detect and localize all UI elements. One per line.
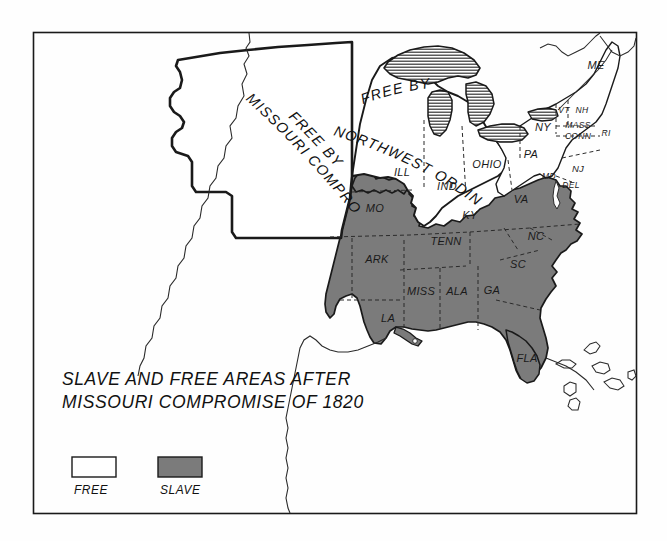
lake-ontario — [528, 108, 558, 121]
map-canvas: FREE BY MISSOURI COMPROMISE FREE BY NORT… — [0, 0, 667, 541]
state-label-ark: ARK — [364, 253, 389, 265]
legend-label-free: FREE — [74, 483, 109, 497]
state-label-conn: CONN — [565, 131, 592, 141]
state-label-ky: KY — [462, 209, 478, 221]
state-label-nj: NJ — [572, 163, 584, 174]
state-label-del: DEL — [562, 180, 579, 190]
state-label-ala: ALA — [445, 285, 468, 297]
state-label-ill: ILL — [394, 166, 410, 178]
state-label-fla: FLA — [516, 352, 537, 364]
state-label-vt: VT — [558, 105, 570, 115]
lake-pontchartrain — [413, 339, 418, 344]
map-title-line1: SLAVE AND FREE AREAS AFTER — [62, 369, 351, 389]
legend-swatch-free — [72, 457, 116, 477]
legend-label-slave: SLAVE — [160, 483, 201, 497]
state-label-nc: NC — [528, 230, 545, 242]
state-label-nh: NH — [576, 105, 589, 115]
state-label-mass: MASS — [565, 120, 590, 130]
map-title-line2: MISSOURI COMPROMISE OF 1820 — [62, 392, 364, 412]
state-label-la: LA — [381, 312, 395, 324]
state-label-mo: MO — [366, 202, 384, 214]
state-label-ohio: OHIO — [472, 158, 501, 170]
state-label-sc: SC — [510, 258, 526, 270]
state-label-ind: IND — [437, 180, 457, 192]
historical-map-figure: FREE BY MISSOURI COMPROMISE FREE BY NORT… — [0, 0, 667, 541]
state-label-ny: NY — [535, 121, 551, 133]
state-label-va: VA — [514, 193, 529, 205]
state-label-miss: MISS — [407, 285, 435, 297]
state-label-me: ME — [587, 59, 604, 71]
state-label-md: MD — [542, 171, 556, 181]
legend-swatch-slave — [158, 457, 202, 477]
state-label-ri: RI — [601, 128, 610, 138]
state-label-ga: GA — [484, 284, 501, 296]
state-label-pa: PA — [524, 148, 538, 160]
state-label-tenn: TENN — [430, 235, 461, 247]
